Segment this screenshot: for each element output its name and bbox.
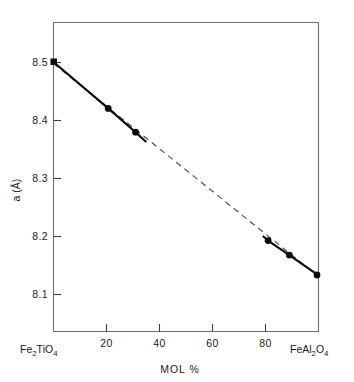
endmember-left-part-2: TiO xyxy=(37,343,54,355)
measured-line-left-branch xyxy=(54,62,147,142)
data-point-4 xyxy=(286,252,293,259)
data-point-markers xyxy=(51,59,321,279)
endmember-right-sub-2: 4 xyxy=(324,349,329,358)
y-tick-label-2: 8.3 xyxy=(32,172,48,184)
y-tick-label-1: 8.4 xyxy=(32,114,48,126)
x-tick-label-1: 40 xyxy=(153,337,165,349)
data-point-2 xyxy=(132,129,139,136)
endmember-right-part-2: O xyxy=(316,343,324,355)
x-tick-labels: 20 40 60 80 xyxy=(100,337,271,349)
endmember-left-sub-2: 4 xyxy=(53,349,58,358)
x-tick-marks xyxy=(107,324,266,332)
y-tick-labels: 8.5 8.4 8.3 8.2 8.1 xyxy=(32,56,48,300)
x-tick-label-0: 20 xyxy=(100,337,112,349)
axis-frame xyxy=(54,22,319,332)
chart-figure: 8.5 8.4 8.3 8.2 8.1 20 40 60 80 Fe2TiO4 … xyxy=(0,0,354,382)
x-endmember-label-right: FeAl2O4 xyxy=(290,343,329,358)
x-axis-title: MOL % xyxy=(160,363,200,375)
y-tick-label-0: 8.5 xyxy=(32,56,48,68)
y-tick-marks xyxy=(54,63,62,295)
y-tick-label-4: 8.1 xyxy=(32,288,48,300)
x-tick-label-3: 80 xyxy=(259,337,271,349)
data-point-3 xyxy=(265,237,272,244)
data-point-5 xyxy=(314,272,321,279)
endmember-left-part-1: Fe xyxy=(20,343,32,355)
chart-plot-svg: 8.5 8.4 8.3 8.2 8.1 20 40 60 80 Fe2TiO4 … xyxy=(0,0,354,382)
x-endmember-label-left: Fe2TiO4 xyxy=(20,343,58,358)
endmember-right-part-1: FeAl xyxy=(290,343,312,355)
data-point-0 xyxy=(51,59,58,66)
data-point-1 xyxy=(105,105,112,112)
y-axis-title: a (Å) xyxy=(10,179,22,202)
y-tick-label-3: 8.2 xyxy=(32,230,48,242)
x-tick-label-2: 60 xyxy=(206,337,218,349)
